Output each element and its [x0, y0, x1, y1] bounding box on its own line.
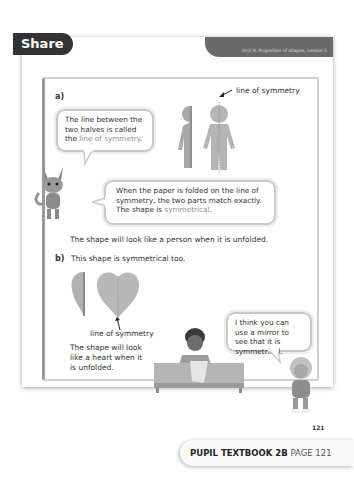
textbook-reference: PUPIL TEXTBOOK 2B PAGE 121: [180, 440, 354, 466]
part-b-statement: The shape will look like a heart when it…: [70, 343, 150, 373]
page-number: 121: [312, 424, 325, 431]
book-title: PUPIL TEXTBOOK 2B: [190, 448, 288, 458]
girl-character: [285, 356, 317, 416]
bubble-punct: .: [140, 134, 142, 143]
speech-bubble-symmetrical: When the paper is folded on the line of …: [104, 180, 276, 225]
folded-heart-half: [72, 272, 85, 316]
folded-person-half: [178, 106, 192, 168]
bubble-punct: .: [210, 205, 212, 214]
person-figures: [175, 100, 255, 175]
fox-character: [33, 163, 73, 225]
heart-figures: [68, 270, 148, 322]
bubble-tail: [268, 350, 282, 364]
part-a-statement: The shape will look like a person when i…: [70, 235, 268, 245]
highlight-term: line of symmetry: [79, 134, 140, 143]
part-b-label: b): [55, 254, 64, 263]
part-b-intro: This shape is symmetrical too.: [71, 254, 185, 264]
bubble-tail: [82, 150, 96, 166]
part-a-label: a): [55, 92, 64, 101]
figure-caption-b: line of symmetry: [90, 329, 154, 339]
arrow-icon: [218, 88, 234, 100]
book-page: PAGE 121: [290, 448, 331, 458]
unit-label: Unit 9: Properties of shapes, Lesson 5: [205, 37, 333, 57]
speech-bubble-mirror: I think you can use a mirror to see that…: [226, 312, 312, 352]
bubble-tail: [92, 196, 108, 208]
figure-caption-a: line of symmetry: [236, 86, 300, 96]
speech-bubble-line-of-symmetry: The line between the two halves is calle…: [56, 109, 154, 152]
highlight-term: symmetrical: [164, 205, 209, 214]
section-title: Share: [13, 33, 73, 55]
